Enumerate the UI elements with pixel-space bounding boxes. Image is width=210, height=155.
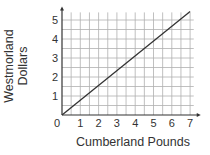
x-tick-label: 2 [96, 117, 102, 129]
plot-area: 0123456712345 [0, 0, 210, 155]
x-tick-label: 0 [54, 117, 60, 129]
x-tick-label: 3 [114, 117, 120, 129]
x-tick-label: 6 [169, 117, 175, 129]
x-tick-label: 1 [77, 117, 83, 129]
chart-figure: 0123456712345 Westmorland Dollars Cumber… [0, 0, 210, 155]
x-tick-label: 7 [187, 117, 193, 129]
y-axis-arrow-icon [60, 6, 64, 10]
x-axis-label: Cumberland Pounds [68, 135, 198, 149]
x-axis-arrow-icon [197, 113, 201, 117]
y-tick-label: 4 [52, 33, 58, 45]
x-tick-label: 4 [132, 117, 138, 129]
y-axis-label-line1: Westmorland [2, 16, 16, 116]
y-tick-label: 3 [52, 52, 58, 64]
y-tick-label: 1 [52, 90, 58, 102]
y-tick-label: 2 [52, 71, 58, 83]
y-axis-label: Westmorland Dollars [2, 16, 30, 116]
y-tick-label: 5 [52, 14, 58, 26]
axes [60, 6, 201, 117]
y-axis-label-line2: Dollars [16, 16, 30, 116]
x-tick-label: 5 [150, 117, 156, 129]
